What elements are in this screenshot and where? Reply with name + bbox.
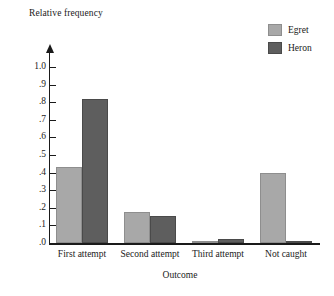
bar-heron-not-caught xyxy=(286,241,312,244)
relative-frequency-bar-chart: Relative frequency 1.0.9.8.7.6.5.4.3.2.1… xyxy=(0,0,334,296)
legend-swatch-egret xyxy=(268,24,282,36)
bar-heron-first-attempt xyxy=(82,99,108,243)
bar-egret-first-attempt xyxy=(56,167,82,243)
legend-swatch-heron xyxy=(268,42,282,54)
bar-egret-not-caught xyxy=(260,173,286,243)
legend-label-egret: Egret xyxy=(288,25,309,35)
legend-item-heron: Heron xyxy=(268,40,312,56)
legend: EgretHeron xyxy=(268,22,312,58)
x-axis-title: Outcome xyxy=(0,270,334,280)
bar-heron-third-attempt xyxy=(218,239,244,243)
legend-item-egret: Egret xyxy=(268,22,312,38)
legend-label-heron: Heron xyxy=(288,43,312,53)
x-axis-label-not-caught: Not caught xyxy=(241,249,331,259)
bar-heron-second-attempt xyxy=(150,216,176,243)
bar-egret-third-attempt xyxy=(192,241,218,244)
bar-egret-second-attempt xyxy=(124,212,150,243)
